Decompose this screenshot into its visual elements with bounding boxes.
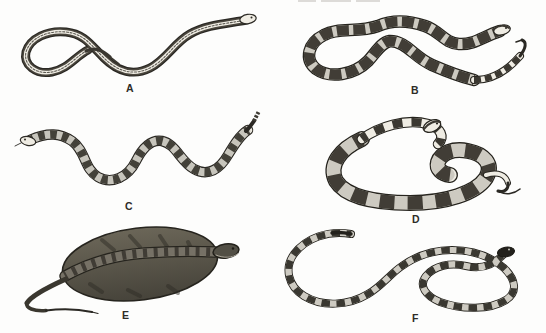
panel-label-f: F <box>412 312 419 324</box>
broad-banded-coiled-snake-illustration <box>310 105 536 223</box>
ring-banded-snake-illustration <box>278 228 544 320</box>
panel-label-a: A <box>126 82 134 94</box>
panel-label-e: E <box>122 309 130 321</box>
snake-identification-figure: A B <box>0 0 546 333</box>
dark-heavy-bodied-coiled-snake-illustration <box>10 218 255 318</box>
rattlesnake-illustration <box>8 108 268 208</box>
panel-label-c: C <box>125 200 133 212</box>
panel-label-d: D <box>412 213 420 225</box>
panel-label-b: B <box>411 84 419 96</box>
